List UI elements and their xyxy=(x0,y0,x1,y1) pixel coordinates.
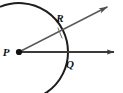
geometry-figure: P Q R xyxy=(0,0,123,93)
geometry-figure-canvas: P Q R xyxy=(0,0,123,93)
label-r: R xyxy=(55,12,63,24)
vertex-point-p xyxy=(16,49,22,55)
label-p: P xyxy=(3,46,10,58)
label-q: Q xyxy=(66,58,74,70)
